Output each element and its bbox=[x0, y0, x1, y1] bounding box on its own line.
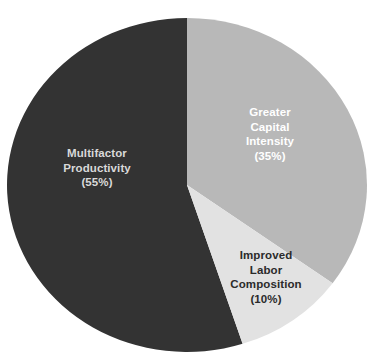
pie-chart-canvas bbox=[0, 0, 373, 364]
pie-chart: Multifactor Productivity (55%) Greater C… bbox=[0, 0, 373, 364]
